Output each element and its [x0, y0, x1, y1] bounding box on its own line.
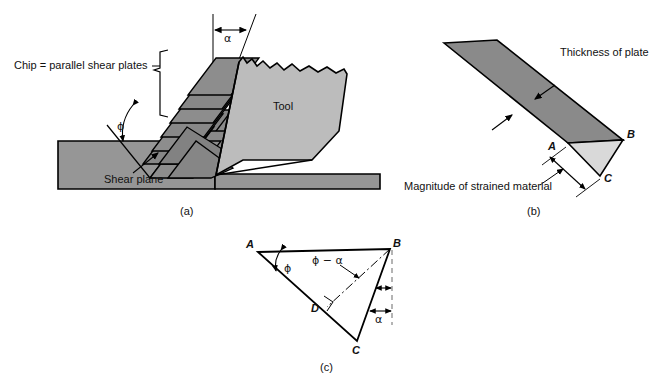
panel-b-caption: (b) — [527, 205, 540, 217]
tool-label: Tool — [273, 100, 293, 112]
rake-face-reference-line — [238, 14, 256, 62]
magnitude-dimension-line — [550, 157, 585, 189]
magnitude-extension-line-c — [576, 179, 600, 197]
vertex-label-c-b: C — [604, 172, 612, 184]
shear-plane-label: Shear plane — [104, 173, 163, 185]
workpiece-machined-surface — [215, 174, 380, 189]
alpha-angle-label: α — [224, 32, 231, 45]
chip-brace — [154, 50, 168, 117]
vertex-label-b-b: B — [627, 128, 635, 140]
vertex-label-c-c: C — [352, 344, 360, 356]
panel-b-group — [444, 40, 623, 197]
panel-a-caption: (a) — [180, 205, 193, 217]
strained-material-triangle — [568, 140, 623, 176]
panel-c-caption: (c) — [320, 361, 333, 373]
right-angle-mark-d — [324, 296, 333, 311]
phi-angle-label: ϕ — [117, 120, 124, 133]
vertex-label-a-b: A — [548, 140, 556, 152]
phi-angle-label-c: ϕ — [284, 262, 291, 275]
vertex-label-d-c: D — [311, 302, 319, 314]
magnitude-of-strained-material-label: Magnitude of strained material — [404, 180, 552, 192]
chip-label: Chip = parallel shear plates — [14, 59, 148, 71]
thickness-of-plate-label: Thickness of plate — [560, 46, 649, 58]
phi-minus-alpha-label: ϕ − α — [312, 254, 343, 267]
vertex-label-a-c: A — [246, 238, 254, 250]
phi-minus-alpha-leader — [340, 265, 359, 278]
plate-thickness-arrow — [492, 115, 512, 130]
alpha-angle-label-c: α — [375, 313, 382, 326]
panel-a-group — [58, 14, 380, 189]
vertex-label-b-c: B — [393, 237, 401, 249]
